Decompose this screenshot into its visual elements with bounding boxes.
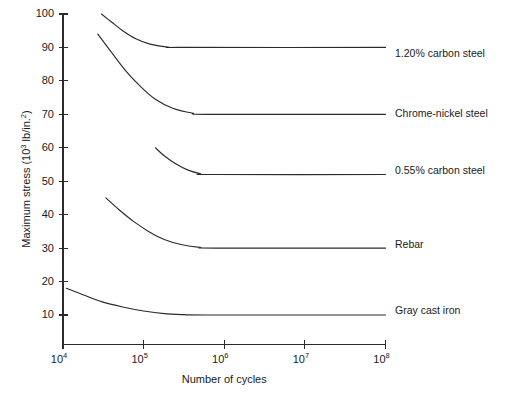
y-tick-label-100: 100 <box>36 7 54 19</box>
y-tick-label-20: 20 <box>42 275 54 287</box>
x-axis-title: Number of cycles <box>182 373 267 385</box>
series-label-3: Rebar <box>395 238 424 250</box>
chart-background <box>0 0 507 406</box>
series-label-2: 0.55% carbon steel <box>395 164 485 176</box>
y-tick-label-70: 70 <box>42 108 54 120</box>
y-tick-label-50: 50 <box>42 175 54 187</box>
y-tick-label-90: 90 <box>42 41 54 53</box>
series-label-0: 1.20% carbon steel <box>395 47 485 59</box>
y-axis-title: Maximum stress (103 lb/in.2) <box>19 110 33 247</box>
chart-canvas: 102030405060708090100 104105106107108 1.… <box>0 0 507 406</box>
y-tick-label-10: 10 <box>42 308 54 320</box>
y-tick-label-80: 80 <box>42 74 54 86</box>
series-label-1: Chrome-nickel steel <box>395 107 488 119</box>
series-label-4: Gray cast iron <box>395 304 461 316</box>
y-tick-label-30: 30 <box>42 242 54 254</box>
fatigue-s-n-chart: 102030405060708090100 104105106107108 1.… <box>0 0 507 406</box>
y-tick-label-60: 60 <box>42 141 54 153</box>
y-tick-label-40: 40 <box>42 208 54 220</box>
